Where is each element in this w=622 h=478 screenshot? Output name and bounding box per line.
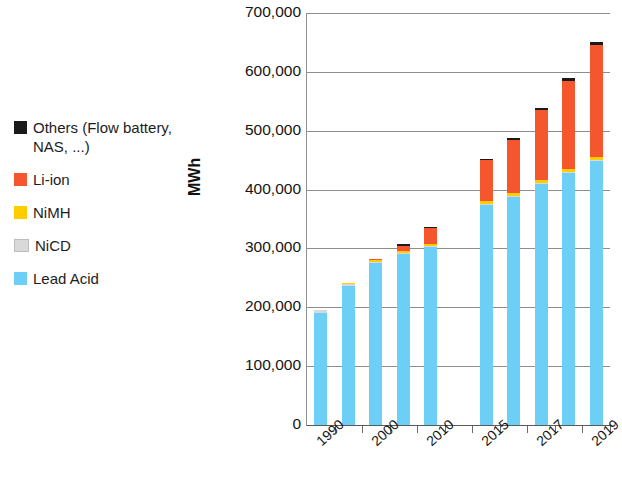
- bar-segment-nimh: [590, 157, 603, 160]
- legend-label-lead-acid: Lead Acid: [33, 269, 99, 288]
- legend-item-nimh: NiMH: [14, 203, 214, 222]
- chart-legend: Others (Flow battery, NAS, ...)Li-ionNiM…: [14, 118, 214, 302]
- bar-segment-lead: [535, 184, 548, 425]
- bar-2019: [590, 42, 603, 425]
- y-tick-label: 200,000: [245, 297, 301, 315]
- y-tick-label: 600,000: [245, 62, 301, 80]
- bar-segment-lead: [562, 173, 575, 425]
- bar-segment-nimh: [369, 260, 382, 262]
- legend-label-li-ion: Li-ion: [33, 170, 70, 189]
- bar-segment-others: [424, 227, 437, 229]
- bar-segment-others: [480, 159, 493, 161]
- bar-2000: [369, 259, 382, 425]
- legend-item-others: Others (Flow battery, NAS, ...): [14, 118, 214, 156]
- legend-swatch-nimh-icon: [14, 206, 27, 219]
- gridline: [307, 72, 610, 73]
- bar-segment-nimh: [507, 193, 520, 196]
- bar-segment-lead: [314, 313, 327, 425]
- legend-item-nicd: NiCD: [14, 236, 214, 255]
- y-tick-label: 0: [292, 415, 301, 433]
- y-axis-tick-labels: 700,000600,000500,000400,000300,000200,0…: [213, 0, 301, 478]
- bar-segment-li-ion: [424, 228, 437, 243]
- bar-2010: [424, 227, 437, 425]
- bar-segment-li-ion: [507, 140, 520, 194]
- bar-segment-lead: [369, 263, 382, 425]
- y-tick-label: 500,000: [245, 121, 301, 139]
- bar-segment-nimh: [342, 283, 355, 285]
- bar-segment-lead: [397, 254, 410, 425]
- bar-segment-nimh: [535, 180, 548, 183]
- plot-area: [307, 13, 610, 425]
- bar-1995: [342, 283, 355, 425]
- legend-swatch-others-icon: [14, 121, 27, 134]
- bar-segment-li-ion: [397, 246, 410, 251]
- bar-segment-li-ion: [369, 259, 382, 261]
- bar-segment-others: [507, 138, 520, 140]
- y-tick-label: 300,000: [245, 238, 301, 256]
- gridline: [307, 13, 610, 14]
- bar-2018: [562, 78, 575, 425]
- x-tick-mark: [582, 426, 583, 433]
- bar-segment-li-ion: [590, 45, 603, 157]
- legend-swatch-nicd-icon: [14, 239, 29, 252]
- legend-label-nimh: NiMH: [33, 203, 71, 222]
- bar-2005: [397, 245, 410, 425]
- bar-2015: [480, 159, 493, 425]
- bar-segment-others: [397, 244, 410, 246]
- y-axis-title: MWh: [186, 158, 204, 196]
- bar-segment-others: [562, 78, 575, 80]
- y-tick-label: 100,000: [245, 356, 301, 374]
- bar-segment-lead: [590, 161, 603, 425]
- x-tick-mark: [417, 426, 418, 433]
- bar-1990: [314, 310, 327, 425]
- legend-swatch-lead-acid-icon: [14, 272, 27, 285]
- bar-segment-lead: [342, 286, 355, 425]
- bar-segment-lead: [507, 197, 520, 425]
- bar-segment-nimh: [480, 201, 493, 204]
- x-tick-mark: [362, 426, 363, 433]
- bar-segment-nimh: [397, 251, 410, 253]
- legend-label-nicd: NiCD: [35, 236, 71, 255]
- legend-label-others: Others (Flow battery, NAS, ...): [33, 118, 172, 156]
- legend-item-lead-acid: Lead Acid: [14, 269, 214, 288]
- bar-segment-li-ion: [562, 81, 575, 169]
- x-tick-mark: [527, 426, 528, 433]
- bar-segment-others: [535, 108, 548, 110]
- y-tick-label: 700,000: [245, 3, 301, 21]
- bar-2017: [535, 108, 548, 425]
- bar-segment-others: [590, 42, 603, 44]
- bar-segment-lead: [424, 247, 437, 425]
- legend-swatch-li-ion-icon: [14, 173, 27, 186]
- bar-segment-li-ion: [535, 110, 548, 180]
- bar-segment-li-ion: [480, 160, 493, 201]
- y-tick-label: 400,000: [245, 180, 301, 198]
- bar-segment-nimh: [562, 169, 575, 172]
- bar-segment-nimh: [424, 244, 437, 246]
- bar-segment-nicd: [342, 284, 355, 286]
- x-tick-mark: [472, 426, 473, 433]
- bar-segment-lead: [480, 205, 493, 425]
- bar-2016: [507, 138, 520, 425]
- bar-segment-nicd: [314, 310, 327, 312]
- legend-item-li-ion: Li-ion: [14, 170, 214, 189]
